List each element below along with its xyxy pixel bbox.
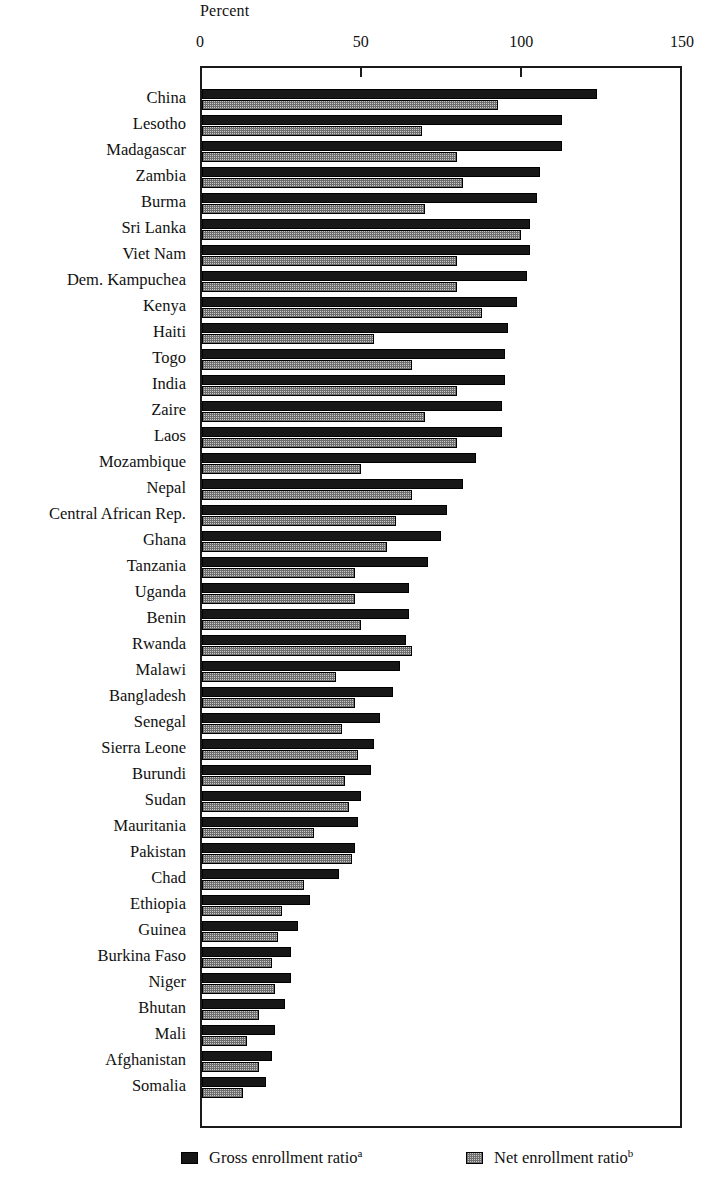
category-label-bangladesh: Bangladesh xyxy=(0,684,193,710)
gross-bar xyxy=(202,765,371,775)
legend-item-gross: Gross enrollment ratioa xyxy=(181,1148,362,1168)
category-label-dem-kampuchea: Dem. Kampuchea xyxy=(0,268,193,294)
category-label-madagascar: Madagascar xyxy=(0,138,193,164)
bar-row xyxy=(202,166,680,192)
gross-bar xyxy=(202,895,310,905)
bar-row xyxy=(202,582,680,608)
bar-rows xyxy=(202,88,680,1102)
bar-row xyxy=(202,686,680,712)
bar-row xyxy=(202,764,680,790)
net-bar xyxy=(202,854,352,864)
dark-solid-swatch-icon xyxy=(181,1152,198,1164)
gross-bar xyxy=(202,323,508,333)
net-bar xyxy=(202,698,355,708)
category-label-burkina-faso: Burkina Faso xyxy=(0,944,193,970)
gross-bar xyxy=(202,89,597,99)
bar-row xyxy=(202,478,680,504)
bar-row xyxy=(202,88,680,114)
x-axis-title: Percent xyxy=(200,2,249,20)
net-bar xyxy=(202,828,314,838)
category-label-mozambique: Mozambique xyxy=(0,450,193,476)
category-label-zambia: Zambia xyxy=(0,164,193,190)
bar-row xyxy=(202,192,680,218)
category-label-china: China xyxy=(0,86,193,112)
net-bar xyxy=(202,1062,259,1072)
x-axis-tick-50: 50 xyxy=(353,33,369,51)
legend-label-gross: Gross enrollment ratioa xyxy=(209,1148,362,1168)
category-label-sri-lanka: Sri Lanka xyxy=(0,216,193,242)
bar-row xyxy=(202,660,680,686)
category-label-sierra-leone: Sierra Leone xyxy=(0,736,193,762)
gross-bar xyxy=(202,219,530,229)
category-label-burma: Burma xyxy=(0,190,193,216)
gross-bar xyxy=(202,791,361,801)
gross-bar xyxy=(202,115,562,125)
category-label-mauritania: Mauritania xyxy=(0,814,193,840)
gross-bar xyxy=(202,661,400,671)
bar-row xyxy=(202,322,680,348)
tickmark-100 xyxy=(520,68,522,77)
category-label-afghanistan: Afghanistan xyxy=(0,1048,193,1074)
bar-row xyxy=(202,1050,680,1076)
category-label-pakistan: Pakistan xyxy=(0,840,193,866)
gross-bar xyxy=(202,1025,275,1035)
x-axis-tick-100: 100 xyxy=(509,33,533,51)
category-label-malawi: Malawi xyxy=(0,658,193,684)
category-label-togo: Togo xyxy=(0,346,193,372)
gross-bar xyxy=(202,297,517,307)
bar-row xyxy=(202,114,680,140)
category-label-laos: Laos xyxy=(0,424,193,450)
net-bar xyxy=(202,906,282,916)
category-label-zaire: Zaire xyxy=(0,398,193,424)
gross-bar xyxy=(202,869,339,879)
bar-row xyxy=(202,920,680,946)
net-bar xyxy=(202,282,457,292)
net-bar xyxy=(202,126,422,136)
net-bar xyxy=(202,360,412,370)
bar-row xyxy=(202,140,680,166)
category-label-niger: Niger xyxy=(0,970,193,996)
gross-bar xyxy=(202,1077,266,1087)
legend-item-net: Net enrollment ratiob xyxy=(466,1148,633,1168)
light-dotted-swatch-icon xyxy=(466,1152,483,1164)
category-label-senegal: Senegal xyxy=(0,710,193,736)
bar-row xyxy=(202,348,680,374)
bar-row xyxy=(202,426,680,452)
category-label-ethiopia: Ethiopia xyxy=(0,892,193,918)
category-label-bhutan: Bhutan xyxy=(0,996,193,1022)
category-label-ghana: Ghana xyxy=(0,528,193,554)
net-bar xyxy=(202,204,425,214)
category-axis-labels: ChinaLesothoMadagascarZambiaBurmaSri Lan… xyxy=(0,86,193,1100)
net-bar xyxy=(202,750,358,760)
bar-row xyxy=(202,608,680,634)
gross-bar xyxy=(202,427,502,437)
bar-row xyxy=(202,296,680,322)
net-bar xyxy=(202,672,336,682)
category-label-lesotho: Lesotho xyxy=(0,112,193,138)
net-bar xyxy=(202,334,374,344)
bar-row xyxy=(202,790,680,816)
net-bar xyxy=(202,594,355,604)
net-bar xyxy=(202,438,457,448)
category-label-nepal: Nepal xyxy=(0,476,193,502)
bar-row xyxy=(202,972,680,998)
chart-legend: Gross enrollment ratioa Net enrollment r… xyxy=(0,1148,709,1172)
net-bar xyxy=(202,386,457,396)
bar-row xyxy=(202,1024,680,1050)
plot-area xyxy=(200,66,682,1128)
gross-bar xyxy=(202,1051,272,1061)
category-label-viet-nam: Viet Nam xyxy=(0,242,193,268)
net-bar xyxy=(202,958,272,968)
gross-bar xyxy=(202,193,537,203)
net-bar xyxy=(202,802,349,812)
gross-bar xyxy=(202,921,298,931)
net-bar xyxy=(202,984,275,994)
bar-row xyxy=(202,504,680,530)
category-label-uganda: Uganda xyxy=(0,580,193,606)
gross-bar xyxy=(202,713,380,723)
net-bar xyxy=(202,880,304,890)
bar-row xyxy=(202,244,680,270)
bar-row xyxy=(202,530,680,556)
net-bar xyxy=(202,1036,247,1046)
bar-row xyxy=(202,634,680,660)
